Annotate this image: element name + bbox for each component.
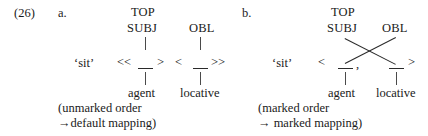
connector-subj-agent-a bbox=[145, 37, 146, 50]
role-locative-b: locative bbox=[376, 86, 416, 101]
gf-subj-a: SUBJ bbox=[127, 21, 157, 36]
connector-locative-role-a bbox=[200, 72, 201, 85]
bracket-open-b: < bbox=[318, 55, 325, 70]
connector-obl-locative-a bbox=[200, 37, 201, 50]
connector-agent-role-a bbox=[145, 72, 146, 85]
predicate-a: ‘sit’ bbox=[74, 56, 94, 71]
connector-locative-role-b bbox=[396, 72, 397, 85]
note-line1-a: (unmarked order bbox=[58, 101, 142, 116]
predicate-b: ‘sit’ bbox=[272, 56, 292, 71]
slot-separator-b: , bbox=[356, 57, 359, 72]
connector-agent-role-b bbox=[345, 72, 346, 85]
note-line1-b: (marked order bbox=[258, 101, 329, 116]
arg-slot-locative-b bbox=[389, 68, 404, 69]
arg-slot-agent-a bbox=[138, 68, 153, 69]
example-number: (26) bbox=[14, 6, 35, 21]
arg-slot-agent-b bbox=[338, 68, 353, 69]
bracket-open-a: << bbox=[117, 55, 131, 70]
item-letter-b: b. bbox=[242, 6, 251, 21]
bracket-close-b: > bbox=[408, 55, 415, 70]
bracket-mid-close-a: > bbox=[157, 55, 164, 70]
gf-obl-a: OBL bbox=[189, 21, 215, 36]
note-line2-b: → marked mapping) bbox=[258, 116, 362, 131]
role-agent-b: agent bbox=[328, 86, 355, 101]
bracket-close-a: >> bbox=[211, 55, 225, 70]
top-label-b: TOP bbox=[331, 5, 355, 20]
top-label-a: TOP bbox=[131, 5, 155, 20]
arg-slot-locative-a bbox=[193, 68, 208, 69]
item-letter-a: a. bbox=[58, 6, 67, 21]
gf-subj-b: SUBJ bbox=[327, 21, 357, 36]
gf-obl-b: OBL bbox=[382, 21, 408, 36]
role-agent-a: agent bbox=[128, 86, 155, 101]
note-line2-a: →default mapping) bbox=[58, 116, 156, 131]
bracket-mid-open-a: < bbox=[175, 55, 182, 70]
role-locative-a: locative bbox=[180, 86, 220, 101]
